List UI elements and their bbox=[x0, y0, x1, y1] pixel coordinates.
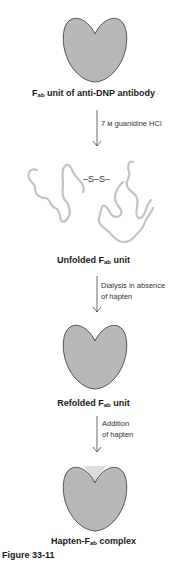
stage-label-native: Fab unit of anti-DNP antibody bbox=[0, 88, 187, 98]
stage-label-complex: Hapten-Fab complex bbox=[0, 536, 187, 546]
step-text: 7 м guanidine HCl bbox=[101, 118, 162, 129]
disulfide-bond: –S–S– bbox=[83, 174, 110, 184]
step-text: of hapten bbox=[102, 429, 133, 440]
step-text: Addition bbox=[102, 418, 133, 429]
label-text: unit of anti-DNP antibody bbox=[45, 88, 155, 98]
stage-label-refolded: Refolded Fab unit bbox=[0, 398, 187, 408]
step-label-hapten-addition: Addition of hapten bbox=[102, 418, 133, 440]
fab-native-shape bbox=[62, 15, 128, 83]
label-subscript: ab bbox=[38, 92, 45, 98]
step-text: Dialysis in absence bbox=[101, 280, 165, 291]
label-text: complex bbox=[97, 536, 136, 546]
step-label-denature: 7 м guanidine HCl bbox=[101, 118, 162, 129]
label-text: Refolded F bbox=[57, 398, 104, 408]
fab-refolded-shape bbox=[62, 322, 128, 390]
label-text: Unfolded F bbox=[57, 255, 104, 265]
arrow-down-icon bbox=[92, 416, 102, 454]
stage-label-unfolded: Unfolded Fab unit bbox=[0, 255, 187, 265]
figure-number: Figure 33-11 bbox=[2, 550, 55, 560]
label-text: Hapten-F bbox=[51, 536, 90, 546]
hapten-fab-complex-shape bbox=[62, 464, 128, 532]
label-subscript: ab bbox=[104, 402, 111, 408]
arrow-down-icon bbox=[92, 110, 102, 148]
step-label-dialysis: Dialysis in absence of hapten bbox=[101, 280, 165, 302]
label-text: unit bbox=[111, 398, 130, 408]
unfolded-chains: –S–S– bbox=[25, 158, 165, 250]
label-subscript: ab bbox=[104, 259, 111, 265]
label-text: unit bbox=[111, 255, 130, 265]
label-subscript: ab bbox=[90, 540, 97, 546]
step-text: of hapten bbox=[101, 291, 165, 302]
